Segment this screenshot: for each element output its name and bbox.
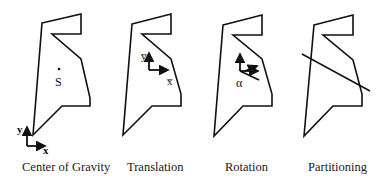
caption-rotation: Rotation (225, 160, 268, 175)
panel-translation: y̅ x̅ (123, 14, 181, 135)
panel-center-of-gravity: S y x (17, 14, 90, 156)
polygon-shape (214, 15, 272, 136)
center-point (58, 68, 61, 71)
x-axis-label: x (43, 144, 49, 156)
diagram-canvas: S y x y̅ x̅ α (0, 0, 385, 184)
center-label: S (55, 75, 62, 89)
y-bar-label: y̅ (141, 50, 147, 62)
panel-partitioning (302, 15, 370, 136)
angle-label: α (236, 76, 243, 90)
rotated-axis-line (240, 71, 259, 80)
caption-translation: Translation (127, 160, 184, 175)
caption-center-of-gravity: Center of Gravity (22, 160, 110, 175)
polygon-shape (304, 15, 362, 136)
x-bar-label: x̅ (167, 75, 173, 87)
y-axis-label: y (17, 123, 23, 135)
partition-line (302, 54, 370, 91)
caption-partitioning: Partitioning (308, 160, 367, 175)
panel-rotation: α (214, 15, 272, 136)
